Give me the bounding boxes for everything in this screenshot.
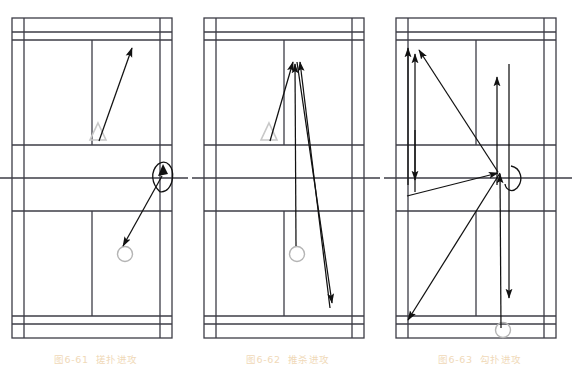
circle-marker xyxy=(290,247,305,262)
shot-arrows-3 xyxy=(407,48,509,328)
court-lines-1 xyxy=(0,18,188,338)
shot-arrows-2 xyxy=(270,62,332,308)
shot-arrow-8 xyxy=(408,173,500,320)
caption-3: 图6-63勾扑进攻 xyxy=(384,352,576,366)
circle-marker xyxy=(118,247,133,262)
caption-number-3: 图6-63 xyxy=(438,354,473,365)
court-panel-2: 图6-62推杀进攻 xyxy=(192,0,384,379)
caption-number-1: 图6-61 xyxy=(54,354,89,365)
court-panel-1: 图6-61搓扑进攻 xyxy=(0,0,192,379)
caption-text-1: 搓扑进攻 xyxy=(96,354,138,365)
shot-arrow-4 xyxy=(297,62,332,303)
caption-2: 图6-62推杀进攻 xyxy=(192,352,384,366)
circle-marker xyxy=(496,323,511,338)
caption-1: 图6-61搓扑进攻 xyxy=(0,352,192,366)
caption-text-3: 勾扑进攻 xyxy=(480,354,522,365)
caption-number-2: 图6-62 xyxy=(246,354,281,365)
shot-arrow-1 xyxy=(99,48,132,141)
figure-root: 图6-61搓扑进攻 xyxy=(0,0,576,379)
caption-text-2: 推杀进攻 xyxy=(288,354,330,365)
shot-arrow-2 xyxy=(295,64,296,246)
court-diagram-1 xyxy=(0,0,192,348)
shot-arrow-6 xyxy=(419,50,498,172)
shot-arrow-9 xyxy=(500,174,501,328)
racket-marker xyxy=(149,160,177,193)
shot-arrows-1 xyxy=(99,48,162,246)
court-panel-3: 图6-63勾扑进攻 xyxy=(384,0,576,379)
shot-arrow-1 xyxy=(270,62,293,141)
court-diagram-3 xyxy=(384,0,576,348)
shot-arrow-7 xyxy=(407,173,498,196)
court-lines-2 xyxy=(192,18,380,338)
court-diagram-2 xyxy=(192,0,384,348)
